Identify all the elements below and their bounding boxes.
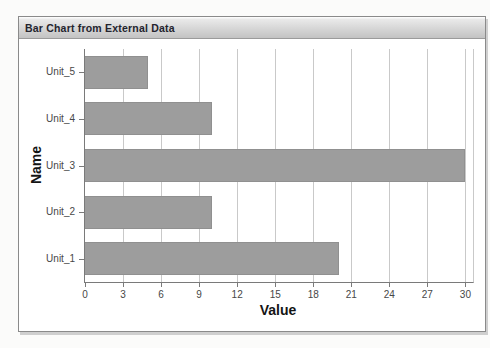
x-tick-label-21: 21 [336,289,366,300]
y-category-label-unit_1: Unit_1 [19,252,75,266]
y-category-label-unit_3: Unit_3 [19,159,75,173]
chart-area: Name Value 036912151821242730Unit_5Unit_… [19,39,485,331]
chart-panel: Bar Chart from External Data Name Value … [18,16,486,332]
bar-unit_2 [85,196,212,229]
x-tick-mark-6 [161,282,162,287]
x-tick-label-12: 12 [222,289,252,300]
x-tick-mark-18 [313,282,314,287]
bar-unit_4 [85,102,212,135]
bar-unit_3 [85,149,465,182]
x-tick-mark-3 [123,282,124,287]
y-tick-mark-unit_3 [79,166,84,167]
x-tick-label-18: 18 [298,289,328,300]
y-category-label-unit_4: Unit_4 [19,112,75,126]
x-tick-label-27: 27 [412,289,442,300]
bar-unit_5 [85,56,148,89]
x-tick-label-15: 15 [260,289,290,300]
x-tick-mark-12 [237,282,238,287]
panel-title: Bar Chart from External Data [19,22,175,34]
x-tick-mark-21 [351,282,352,287]
plot-area [84,49,474,283]
y-tick-mark-unit_5 [79,72,84,73]
x-tick-label-24: 24 [374,289,404,300]
x-tick-mark-27 [427,282,428,287]
bar-unit_1 [85,242,339,275]
y-category-label-unit_2: Unit_2 [19,205,75,219]
gridline-30 [465,49,466,282]
x-tick-mark-9 [199,282,200,287]
panel-title-bar: Bar Chart from External Data [19,17,485,39]
x-tick-label-9: 9 [184,289,214,300]
x-tick-label-30: 30 [450,289,480,300]
x-tick-mark-15 [275,282,276,287]
x-tick-mark-24 [389,282,390,287]
y-tick-mark-unit_4 [79,119,84,120]
x-tick-mark-0 [85,282,86,287]
y-category-label-unit_5: Unit_5 [19,65,75,79]
y-tick-mark-unit_1 [79,259,84,260]
y-tick-mark-unit_2 [79,212,84,213]
x-tick-label-0: 0 [70,289,100,300]
x-tick-label-3: 3 [108,289,138,300]
x-tick-mark-30 [465,282,466,287]
x-tick-label-6: 6 [146,289,176,300]
x-axis-title: Value [84,302,472,318]
